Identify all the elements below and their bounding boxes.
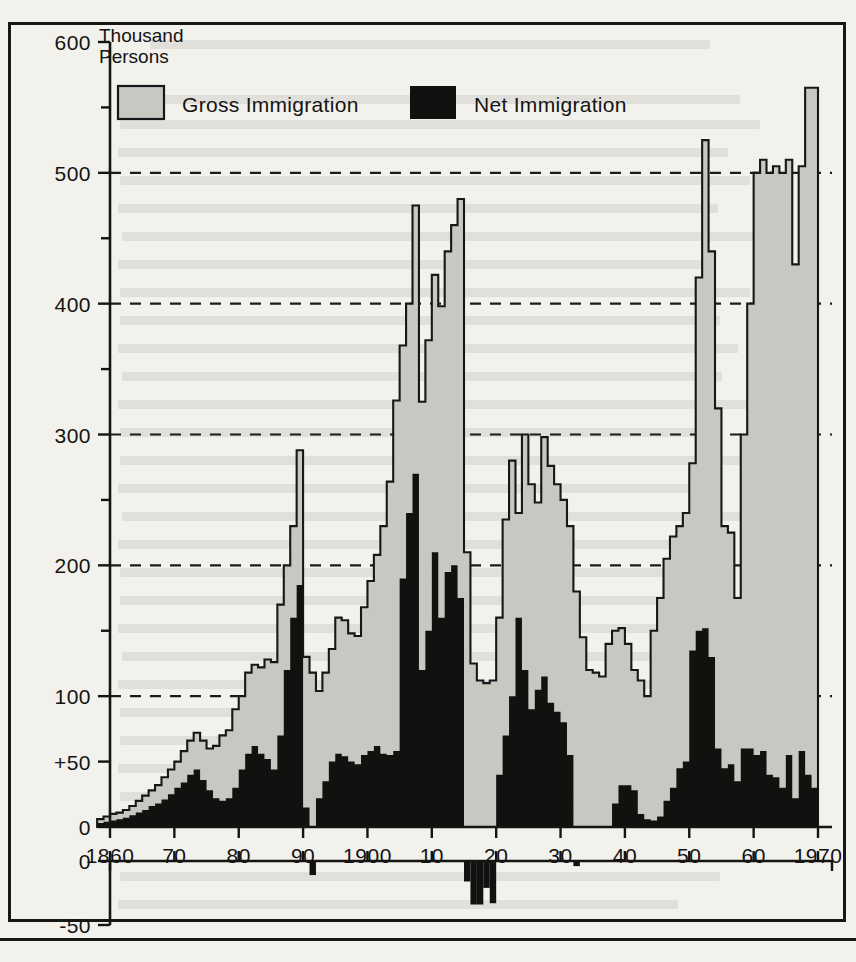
data-areas <box>97 88 818 905</box>
x-tick-label-1870: 70 <box>162 844 186 867</box>
y-tick-label-+50: +50 <box>54 751 91 774</box>
net-emigration-bar-1919 <box>490 861 496 903</box>
net-emigration-bar-1915 <box>464 861 470 881</box>
neg-y-tick-label--50: -50 <box>59 914 91 937</box>
chart-legend: Gross Immigration Net Immigration <box>118 86 627 119</box>
legend-label-net: Net Immigration <box>474 93 627 116</box>
net-emigration-bar-1917 <box>477 861 483 905</box>
legend-label-gross: Gross Immigration <box>182 93 359 116</box>
x-tick-label-1890: 90 <box>291 844 315 867</box>
chart-figure: 600500400300200100+500186070809019001020… <box>0 0 856 962</box>
x-tick-label-1860: 1860 <box>86 844 135 867</box>
net-swatch <box>410 86 456 119</box>
x-tick-label-1880: 80 <box>227 844 251 867</box>
neg-y-tick-label-0: 0 <box>79 850 91 873</box>
y-tick-label-300: 300 <box>54 424 91 447</box>
x-tick-label-1900: 1900 <box>343 844 392 867</box>
y-tick-label-400: 400 <box>54 293 91 316</box>
x-tick-label-1950: 50 <box>677 844 701 867</box>
y-tick-label-500: 500 <box>54 162 91 185</box>
x-tick-label-1920: 20 <box>484 844 508 867</box>
net-emigration-bar-1916 <box>470 861 476 905</box>
y-tick-label-0: 0 <box>79 816 91 839</box>
x-tick-label-1940: 40 <box>613 844 637 867</box>
scanned-page: 600500400300200100+500186070809019001020… <box>0 0 856 962</box>
x-tick-label-1970: 1970 <box>794 844 843 867</box>
gross-swatch <box>118 86 164 119</box>
immigration-chart-svg: 600500400300200100+500186070809019001020… <box>0 0 856 962</box>
x-tick-label-1910: 10 <box>420 844 444 867</box>
x-tick-label-1960: 60 <box>741 844 765 867</box>
unit-label-line2: Persons <box>99 46 169 67</box>
x-tick-label-1930: 30 <box>548 844 572 867</box>
y-tick-label-100: 100 <box>54 685 91 708</box>
y-tick-label-600: 600 <box>54 31 91 54</box>
unit-label: Thousand Persons <box>99 25 184 67</box>
unit-label-line1: Thousand <box>99 25 184 46</box>
y-tick-label-200: 200 <box>54 554 91 577</box>
